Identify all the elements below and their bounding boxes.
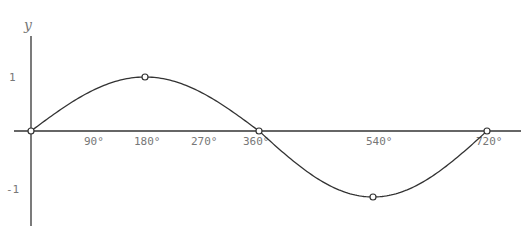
y-tick-neg1: -1	[6, 183, 19, 196]
data-point-marker	[256, 128, 262, 134]
y-axis-label: y	[23, 17, 33, 33]
x-tick-180: 180°	[134, 135, 161, 148]
x-tick-90: 90°	[84, 135, 104, 148]
x-tick-540: 540°	[366, 135, 393, 148]
data-point-marker	[28, 128, 34, 134]
x-tick-270: 270°	[191, 135, 218, 148]
y-tick-1: 1	[9, 71, 16, 84]
data-point-marker	[370, 194, 376, 200]
data-point-marker	[142, 74, 148, 80]
data-point-marker	[484, 128, 490, 134]
sine-chart: y 1 -1 90° 180° 270° 360° 540° 720°	[0, 0, 532, 243]
